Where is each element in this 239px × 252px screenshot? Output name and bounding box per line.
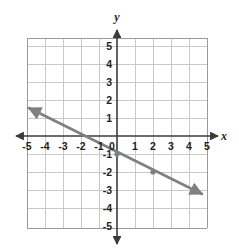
- x-tick-label: 2: [150, 140, 156, 152]
- x-tick-label: -4: [40, 140, 49, 152]
- x-tick-label: 5: [204, 140, 210, 152]
- data-point-y-intercept: [114, 151, 119, 156]
- coordinate-plane-figure: -5 -4 -3 -2 -1 0 1 2 3 4 5 5 4 3 2 1 -1 …: [0, 0, 239, 252]
- data-point-second: [150, 169, 155, 174]
- y-tick-label: 2: [106, 94, 112, 106]
- y-tick-label: -4: [103, 202, 112, 214]
- x-tick-label: -3: [58, 140, 67, 152]
- graph-canvas: -5 -4 -3 -2 -1 0 1 2 3 4 5 5 4 3 2 1 -1 …: [0, 0, 239, 252]
- y-tick-label: -5: [103, 220, 112, 232]
- x-tick-label: 3: [168, 140, 174, 152]
- y-tick-label: -2: [103, 166, 112, 178]
- y-tick-label: 1: [106, 112, 112, 124]
- y-tick-label: -3: [103, 184, 112, 196]
- x-tick-label: 4: [186, 140, 192, 152]
- y-tick-label: 3: [106, 76, 112, 88]
- y-tick-label: 4: [106, 58, 112, 70]
- x-axis-label: x: [220, 129, 227, 143]
- y-axis-label: y: [112, 10, 120, 24]
- plotted-line: [29, 108, 202, 194]
- x-tick-label: -2: [76, 140, 85, 152]
- y-tick-label: 5: [106, 40, 112, 52]
- x-tick-label: 1: [132, 140, 138, 152]
- y-tick-label: -1: [103, 148, 112, 160]
- x-tick-label: -5: [22, 140, 31, 152]
